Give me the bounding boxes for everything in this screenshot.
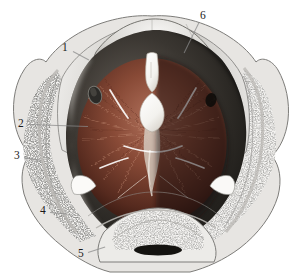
label-5: 5 — [78, 248, 84, 260]
label-3: 3 — [14, 150, 20, 162]
label-4: 4 — [40, 205, 46, 217]
anatomical-figure: 1 2 3 4 5 6 — [0, 0, 302, 278]
label-1: 1 — [62, 42, 68, 54]
pelvis-illustration — [0, 0, 302, 278]
label-2: 2 — [18, 118, 24, 130]
label-6: 6 — [200, 10, 206, 22]
